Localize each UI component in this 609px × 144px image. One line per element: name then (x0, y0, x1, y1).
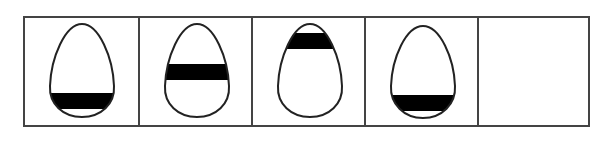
panel-4 (364, 18, 477, 125)
egg-band-bottom-icon (25, 18, 138, 125)
panel-1 (25, 18, 138, 125)
panel-3 (251, 18, 364, 125)
egg-band-top-icon (253, 18, 366, 125)
egg-band-bottom-icon (366, 18, 479, 125)
egg-band-middle-icon (140, 18, 253, 125)
panel-5-answer-blank (477, 18, 588, 125)
panel-2 (138, 18, 251, 125)
figure-sequence-strip (23, 16, 590, 127)
